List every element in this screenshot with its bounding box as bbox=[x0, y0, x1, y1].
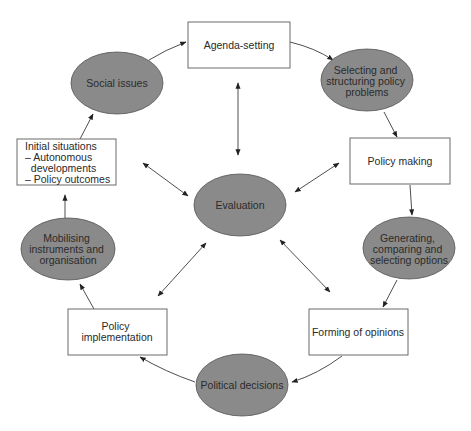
node-evaluation: Evaluation bbox=[194, 174, 286, 236]
node-policy-implementation: Policy implementation bbox=[68, 309, 167, 355]
node-initial-situations: Initial situations – Autonomous developm… bbox=[17, 139, 116, 185]
edge-implementation-to-mobilising bbox=[80, 284, 94, 309]
svg-text:Initial situations – Aut: Initial situations – Autonomous developm… bbox=[25, 140, 110, 185]
node-political-decisions: Political decisions bbox=[196, 354, 288, 416]
svg-text:Evaluation: Evaluation bbox=[215, 199, 264, 211]
node-forming-opinions: Forming of opinions bbox=[309, 309, 408, 355]
svg-text:Agenda-setting: Agenda-setting bbox=[204, 39, 275, 51]
edge-selecting-to-policymaking bbox=[384, 112, 397, 137]
svg-text:Political decisions: Political decisions bbox=[201, 379, 284, 391]
svg-text:Generating, comparing an: Generating, comparing and selecting opti… bbox=[370, 232, 448, 266]
link-evaluation-implementation bbox=[158, 243, 206, 296]
link-evaluation-initial bbox=[143, 163, 188, 196]
edge-agenda-to-selecting bbox=[290, 42, 333, 60]
edge-initial-to-social bbox=[80, 114, 93, 139]
edge-generating-to-forming bbox=[383, 280, 397, 307]
link-evaluation-forming bbox=[280, 240, 330, 292]
svg-text:Social issues: Social issues bbox=[86, 77, 147, 89]
svg-text:Forming of opinions: Forming of opinions bbox=[312, 326, 404, 338]
node-agenda-setting: Agenda-setting bbox=[188, 22, 290, 68]
node-policy-making: Policy making bbox=[350, 138, 450, 184]
link-evaluation-policymaking bbox=[295, 163, 339, 192]
node-generating-options: Generating, comparing and selecting opti… bbox=[363, 217, 455, 279]
policy-cycle-diagram: Agenda-setting Selecting and structuring… bbox=[0, 0, 471, 431]
edge-policymaking-to-generating bbox=[410, 185, 412, 215]
node-selecting-problems: Selecting and structuring policy problem… bbox=[321, 49, 413, 111]
node-social-issues: Social issues bbox=[71, 52, 163, 114]
edge-forming-to-political bbox=[292, 356, 342, 382]
edge-social-to-agenda bbox=[149, 42, 186, 60]
edge-political-to-implementation bbox=[140, 357, 195, 382]
svg-text:Policy making: Policy making bbox=[368, 155, 433, 167]
node-mobilising: Mobilising instruments and organisation bbox=[21, 218, 115, 280]
